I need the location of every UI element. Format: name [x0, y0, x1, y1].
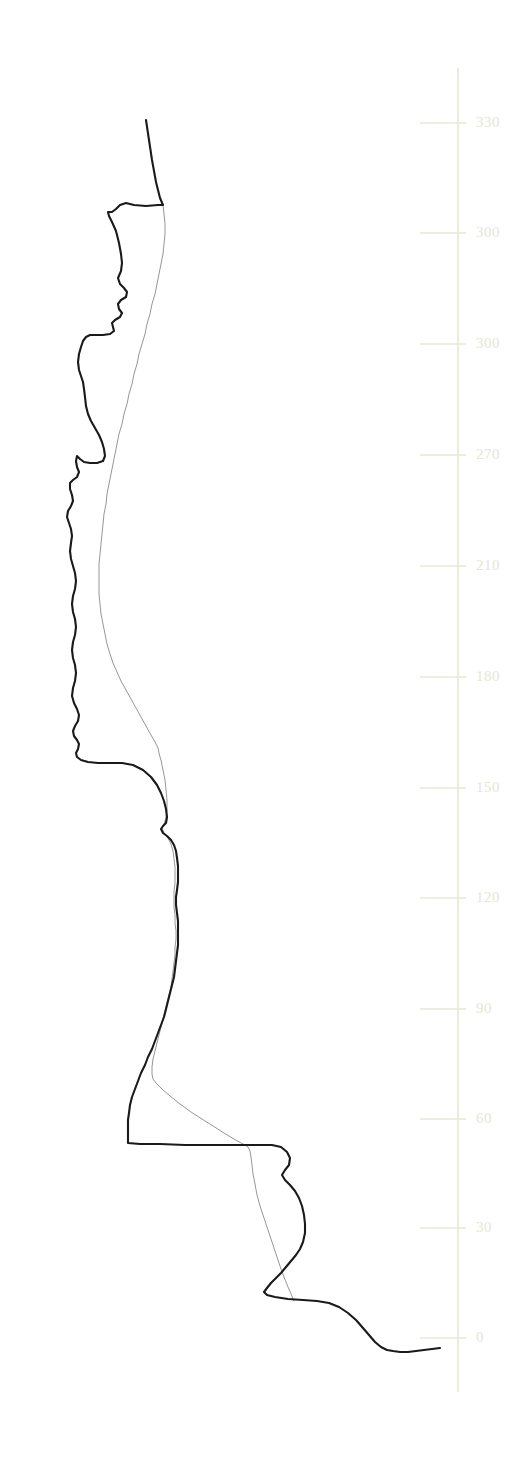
axis-tick-label: 0	[476, 1330, 484, 1345]
plot-canvas: 3303003002702101801501209060300	[0, 0, 524, 1460]
axis-tick-label: 210	[476, 558, 500, 573]
axis-tick-label: 270	[476, 447, 500, 462]
axis-group	[420, 68, 466, 1392]
axis-tick-label: 180	[476, 669, 500, 684]
series-group	[67, 120, 440, 1352]
axis-tick-label: 120	[476, 890, 500, 905]
axis-tick-label: 30	[476, 1220, 492, 1235]
axis-tick-group	[420, 123, 466, 1338]
profile-chart-svg	[0, 0, 524, 1460]
axis-tick-label: 300	[476, 336, 500, 351]
axis-tick-label: 300	[476, 225, 500, 240]
primary-profile-line	[67, 120, 440, 1352]
axis-tick-label: 60	[476, 1111, 492, 1126]
axis-tick-label: 330	[476, 115, 500, 130]
axis-tick-label: 90	[476, 1001, 492, 1016]
axis-tick-label: 150	[476, 780, 500, 795]
